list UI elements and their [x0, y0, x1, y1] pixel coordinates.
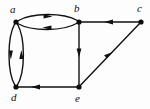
edge-a-to-b — [18, 14, 78, 21]
node-label-c: c — [137, 3, 142, 14]
edge-b-to-e — [77, 24, 82, 87]
graph-figure: a b c d e — [0, 0, 150, 109]
node-label-a: a — [10, 4, 16, 15]
edge-e-to-d — [18, 85, 78, 90]
edge-d-to-a — [9, 24, 16, 86]
node-c-dot[interactable] — [138, 19, 143, 24]
node-e-dot[interactable] — [76, 84, 81, 89]
node-b-dot[interactable] — [76, 19, 81, 24]
node-a-dot[interactable] — [13, 19, 18, 24]
node-d-dot[interactable] — [13, 84, 18, 89]
edge-b-to-a — [18, 23, 78, 30]
edge-e-to-c-arrowhead — [104, 52, 113, 58]
edge-e-to-d-arrowhead — [31, 85, 40, 90]
node-label-b: b — [74, 3, 80, 14]
edge-c-to-b — [81, 20, 140, 25]
edge-a-to-d — [17, 24, 24, 86]
node-label-d: d — [11, 92, 17, 103]
edge-c-to-b-arrowhead — [104, 20, 113, 25]
node-label-e: e — [75, 93, 80, 104]
edge-b-to-e-arrowhead — [77, 49, 82, 58]
edge-e-to-c — [80, 23, 140, 86]
